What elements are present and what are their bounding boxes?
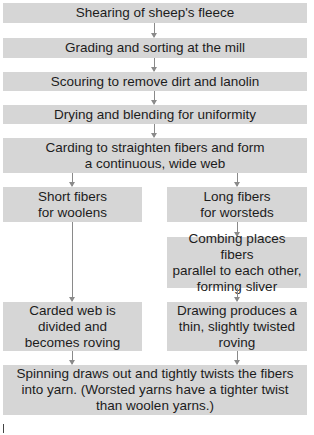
step-drying: Drying and blending for uniformity	[3, 105, 307, 124]
step-long-fibers: Long fibers for worsteds	[167, 187, 307, 222]
arrow-down-icon	[72, 173, 73, 186]
arrow-down-icon	[72, 222, 73, 301]
arrow-down-icon	[154, 91, 155, 104]
step-scouring: Scouring to remove dirt and lanolin	[3, 72, 307, 91]
arrow-down-icon	[154, 58, 155, 71]
arrow-down-icon	[237, 288, 238, 301]
step-short-fibers: Short fibers for woolens	[3, 187, 142, 222]
step-drawing: Drawing produces a thin, slightly twiste…	[167, 302, 307, 351]
step-carded-web: Carded web is divided and becomes roving	[3, 302, 142, 351]
arrow-down-icon	[154, 124, 155, 137]
step-spinning: Spinning draws out and tightly twists th…	[3, 365, 307, 415]
step-grading: Grading and sorting at the mill	[3, 38, 307, 58]
arrow-down-icon	[72, 351, 73, 364]
step-shearing: Shearing of sheep's fleece	[3, 3, 307, 23]
edge-mark	[3, 424, 4, 433]
arrow-down-icon	[237, 351, 238, 364]
arrow-down-icon	[154, 23, 155, 37]
step-carding: Carding to straighten fibers and form a …	[3, 138, 307, 173]
arrow-down-icon	[237, 173, 238, 186]
step-combing: Combing places fibers parallel to each o…	[167, 237, 307, 288]
